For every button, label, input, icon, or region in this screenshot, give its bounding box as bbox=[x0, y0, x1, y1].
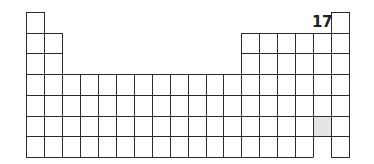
element-cell bbox=[26, 95, 45, 117]
element-cell bbox=[241, 95, 260, 117]
element-cell bbox=[26, 74, 45, 96]
group-17-label: 17 bbox=[312, 15, 332, 30]
element-cell bbox=[206, 95, 224, 117]
element-cell bbox=[134, 136, 153, 158]
element-cell bbox=[188, 74, 207, 96]
element-cell bbox=[259, 95, 278, 117]
element-cell bbox=[44, 95, 63, 117]
element-cell bbox=[116, 136, 135, 158]
element-cell bbox=[259, 116, 278, 137]
element-cell bbox=[313, 74, 332, 96]
element-cell bbox=[26, 33, 45, 54]
element-cell bbox=[241, 53, 260, 75]
element-cell bbox=[80, 116, 99, 137]
element-cell bbox=[313, 136, 332, 158]
element-cell bbox=[313, 53, 332, 75]
element-cell bbox=[44, 74, 63, 96]
element-cell bbox=[188, 95, 207, 117]
element-cell bbox=[241, 116, 260, 137]
element-cell bbox=[223, 136, 242, 158]
element-cell bbox=[134, 116, 153, 137]
element-cell bbox=[223, 95, 242, 117]
element-cell bbox=[80, 136, 99, 158]
element-cell bbox=[259, 33, 278, 54]
element-cell bbox=[331, 33, 350, 54]
element-cell bbox=[295, 116, 314, 137]
element-cell bbox=[313, 33, 332, 54]
element-cell bbox=[277, 74, 296, 96]
element-cell bbox=[241, 74, 260, 96]
element-cell bbox=[277, 116, 296, 137]
element-cell bbox=[26, 136, 45, 158]
element-cell bbox=[116, 116, 135, 137]
element-cell bbox=[295, 136, 314, 158]
element-cell bbox=[188, 136, 207, 158]
element-cell bbox=[134, 74, 153, 96]
element-cell bbox=[152, 116, 171, 137]
element-cell bbox=[116, 95, 135, 117]
element-cell bbox=[206, 74, 224, 96]
element-cell bbox=[44, 136, 63, 158]
element-cell bbox=[44, 116, 63, 137]
element-cell bbox=[152, 95, 171, 117]
element-cell bbox=[331, 116, 350, 137]
element-cell bbox=[80, 74, 99, 96]
element-cell bbox=[44, 53, 63, 75]
element-cell bbox=[295, 74, 314, 96]
element-cell bbox=[188, 116, 207, 137]
element-cell bbox=[98, 136, 117, 158]
element-cell bbox=[98, 74, 117, 96]
element-cell bbox=[295, 95, 314, 117]
element-cell bbox=[277, 136, 296, 158]
element-cell bbox=[259, 53, 278, 75]
element-cell bbox=[331, 12, 350, 34]
element-cell bbox=[206, 136, 224, 158]
element-cell bbox=[331, 136, 350, 158]
element-cell bbox=[206, 116, 224, 137]
element-cell bbox=[62, 116, 81, 137]
element-cell bbox=[241, 136, 260, 158]
element-cell bbox=[26, 12, 45, 34]
element-cell bbox=[26, 53, 45, 75]
element-cell bbox=[223, 116, 242, 137]
element-cell bbox=[277, 53, 296, 75]
element-cell bbox=[241, 33, 260, 54]
element-cell bbox=[98, 95, 117, 117]
element-cell bbox=[223, 74, 242, 96]
element-cell bbox=[44, 33, 63, 54]
element-cell bbox=[331, 53, 350, 75]
element-cell bbox=[259, 136, 278, 158]
element-cell bbox=[80, 95, 99, 117]
element-cell bbox=[62, 136, 81, 158]
element-cell bbox=[331, 74, 350, 96]
element-cell bbox=[170, 116, 189, 137]
element-cell bbox=[295, 33, 314, 54]
highlighted-element-cell bbox=[313, 116, 332, 137]
element-cell bbox=[259, 74, 278, 96]
element-cell bbox=[313, 95, 332, 117]
element-cell bbox=[62, 74, 81, 96]
element-cell bbox=[170, 74, 189, 96]
element-cell bbox=[152, 136, 171, 158]
element-cell bbox=[152, 74, 171, 96]
element-cell bbox=[331, 95, 350, 117]
element-cell bbox=[98, 116, 117, 137]
element-cell bbox=[62, 95, 81, 117]
element-cell bbox=[116, 74, 135, 96]
element-cell bbox=[295, 53, 314, 75]
element-cell bbox=[277, 95, 296, 117]
element-cell bbox=[134, 95, 153, 117]
element-cell bbox=[170, 95, 189, 117]
element-cell bbox=[277, 33, 296, 54]
element-cell bbox=[170, 136, 189, 158]
element-cell bbox=[26, 116, 45, 137]
